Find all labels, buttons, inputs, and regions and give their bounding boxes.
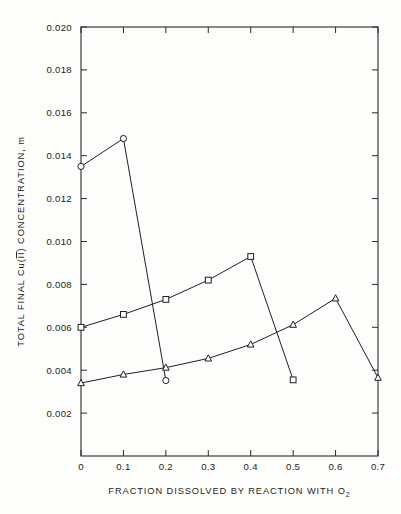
x-tick-label-2: 0.2 xyxy=(159,461,173,472)
y-tick-label-8: 0.018 xyxy=(46,64,72,75)
y-tick-label-1: 0.004 xyxy=(46,365,72,376)
marker-circle-1 xyxy=(120,135,126,141)
y-axis-title-part1: TOTAL FINAL Cu( xyxy=(16,258,26,346)
y-axis-title-roman: II xyxy=(16,251,26,258)
marker-square-4 xyxy=(248,254,254,260)
series-circle-series xyxy=(78,135,169,383)
x-tick-label-4: 0.4 xyxy=(244,461,259,472)
series-triangle-series xyxy=(78,295,382,386)
x-tick-label-0: 0 xyxy=(78,461,84,472)
marker-circle-0 xyxy=(78,163,84,169)
x-axis-title-subscript: 2 xyxy=(346,491,351,498)
figure-page: 00.10.20.30.40.50.60.7 0.0020.0040.0060.… xyxy=(0,0,401,514)
x-axis-tick-labels: 00.10.20.30.40.50.60.7 xyxy=(78,461,385,472)
y-tick-label-3: 0.008 xyxy=(46,279,72,290)
plot-frame xyxy=(81,27,378,456)
y-tick-label-0: 0.002 xyxy=(46,408,72,419)
y-axis-tick-labels: 0.0020.0040.0060.0080.0100.0120.0140.016… xyxy=(46,22,72,419)
marker-triangle-5 xyxy=(290,321,297,327)
chart-figure: 00.10.20.30.40.50.60.7 0.0020.0040.0060.… xyxy=(0,0,401,514)
x-tick-label-6: 0.6 xyxy=(328,461,342,472)
data-series-layer xyxy=(78,135,382,385)
series-line-circle-series xyxy=(81,139,166,381)
x-tick-label-1: 0.1 xyxy=(116,461,130,472)
axis-titles: FRACTION DISSOLVED BY REACTION WITH O2TO… xyxy=(16,136,351,498)
marker-square-3 xyxy=(205,277,211,283)
y-tick-label-2: 0.006 xyxy=(46,322,72,333)
marker-square-5 xyxy=(290,377,296,383)
y-axis-title-part2: ) CONCENTRATION, m xyxy=(16,136,26,251)
marker-square-1 xyxy=(121,312,127,318)
x-axis-ticks xyxy=(81,27,378,456)
marker-triangle-6 xyxy=(332,295,339,301)
x-tick-label-7: 0.7 xyxy=(371,461,385,472)
y-tick-label-9: 0.020 xyxy=(46,22,72,33)
y-axis-ticks xyxy=(81,27,378,413)
marker-square-2 xyxy=(163,297,169,303)
plot-border xyxy=(81,27,378,456)
x-axis-title: FRACTION DISSOLVED BY REACTION WITH O2 xyxy=(108,486,350,498)
x-tick-label-5: 0.5 xyxy=(286,461,300,472)
x-axis-title-main: FRACTION DISSOLVED BY REACTION WITH O xyxy=(108,486,346,496)
y-tick-label-5: 0.012 xyxy=(46,193,72,204)
y-axis-title: TOTAL FINAL Cu(II) CONCENTRATION, m xyxy=(16,136,26,347)
y-tick-label-4: 0.010 xyxy=(46,236,72,247)
marker-triangle-7 xyxy=(375,374,382,380)
series-line-square-series xyxy=(81,257,293,380)
marker-triangle-4 xyxy=(247,341,254,347)
x-tick-label-3: 0.3 xyxy=(201,461,215,472)
y-tick-label-6: 0.014 xyxy=(46,150,72,161)
marker-circle-2 xyxy=(163,377,169,383)
y-tick-label-7: 0.016 xyxy=(46,107,72,118)
marker-square-0 xyxy=(78,324,84,330)
